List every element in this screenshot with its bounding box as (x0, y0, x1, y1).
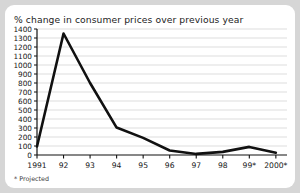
x-axis-tick-label: 99* (243, 161, 256, 170)
x-axis-tick-label: 96 (165, 161, 175, 170)
x-axis-tick-label: 97 (191, 161, 201, 170)
plot-area: 0100200300400500600700800900100011001200… (5, 5, 295, 188)
y-axis-tick-label: 400 (5, 115, 32, 124)
y-axis-tick-label: 0 (5, 151, 32, 160)
x-axis-tick-label: 1991 (27, 161, 46, 170)
x-axis-tick-label: 2000* (264, 161, 287, 170)
x-axis-tick-label: 92 (59, 161, 69, 170)
chart-panel: % change in consumer prices over previou… (5, 5, 295, 188)
y-axis-tick-label: 1200 (5, 43, 32, 52)
y-axis-tick-label: 600 (5, 97, 32, 106)
x-axis-tick-label: 94 (112, 161, 122, 170)
data-series-line (37, 34, 276, 154)
y-axis-tick-label: 1300 (5, 34, 32, 43)
y-axis-tick-label: 800 (5, 79, 32, 88)
x-axis-tick-label: 93 (85, 161, 95, 170)
x-axis-tick-label: 95 (138, 161, 148, 170)
y-axis-tick-label: 300 (5, 124, 32, 133)
y-axis-tick-label: 1400 (5, 25, 32, 34)
y-axis-tick-label: 1000 (5, 61, 32, 70)
y-axis-tick-label: 900 (5, 70, 32, 79)
x-axis-tick-label: 98 (218, 161, 228, 170)
y-axis-tick-label: 500 (5, 106, 32, 115)
y-axis-tick-label: 200 (5, 133, 32, 142)
y-axis-tick-label: 100 (5, 142, 32, 151)
y-axis-tick-label: 1100 (5, 52, 32, 61)
y-axis-tick-label: 700 (5, 88, 32, 97)
chart-footnote: * Projected (14, 175, 49, 183)
gridlines (37, 29, 287, 146)
